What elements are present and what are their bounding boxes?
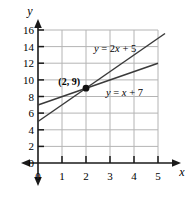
y-tick-0: 0 [29,157,35,169]
y-tick-8: 8 [29,91,35,103]
graph-canvas: 16 14 12 10 8 6 4 2 0 0 1 2 3 4 5 y x [0,0,185,197]
svg-text:y = x + 7: y = x + 7 [105,87,143,98]
x-tick-3: 3 [107,170,113,182]
y-tick-4: 4 [29,124,35,136]
x-tick-2: 2 [83,170,89,182]
eq-upper-rhs: + 5 [120,43,136,54]
svg-text:y = 2x + 5: y = 2x + 5 [93,43,136,54]
equation-label-lower: y = x + 7 [105,87,143,98]
y-tick-14: 14 [23,41,35,53]
intersection-point-marker [83,85,90,92]
x-tick-1: 1 [59,170,65,182]
x-tick-4: 4 [131,170,137,182]
x-axis-tick-labels: 0 1 2 3 4 5 [35,170,161,182]
y-tick-16: 16 [23,24,35,36]
eq-lower-rhs: + 7 [127,87,143,98]
y-axis-tick-labels: 16 14 12 10 8 6 4 2 0 [23,24,35,169]
equation-label-upper: y = 2x + 5 [93,43,136,54]
y-axis-label: y [26,4,33,18]
eq-upper-eq: = 2 [99,43,115,54]
x-axis-label: x [178,165,185,179]
coordinate-graph: 16 14 12 10 8 6 4 2 0 0 1 2 3 4 5 y x [0,0,185,197]
y-tick-12: 12 [23,57,34,69]
y-tick-6: 6 [29,107,35,119]
x-tick-0: 0 [35,170,41,182]
y-tick-10: 10 [23,74,35,86]
x-tick-5: 5 [155,170,161,182]
y-axis-arrow-up [34,19,42,28]
line-y-equals-x-plus-7 [38,63,158,105]
eq-lower-eq: = [111,87,122,98]
y-tick-2: 2 [29,140,35,152]
intersection-point-label: (2, 9) [58,76,80,88]
